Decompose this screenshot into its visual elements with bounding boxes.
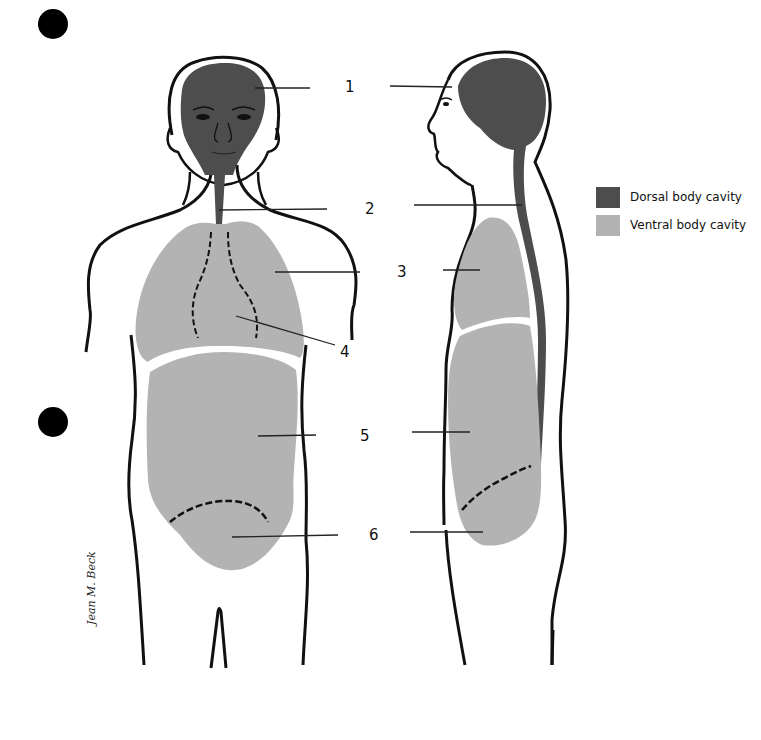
label-2: 2	[365, 200, 375, 218]
leader-line-2-front	[219, 209, 327, 210]
front-view-figure	[86, 57, 360, 668]
diagram-canvas: 1 2 3 4 5 6 Dorsal body cavity Ventral b…	[0, 0, 761, 740]
front-abdominopelvic-cavity	[147, 352, 298, 570]
dorsal-swatch	[596, 187, 620, 208]
legend-item-ventral: Ventral body cavity	[596, 212, 746, 238]
artist-signature: Jean M. Beck	[85, 551, 98, 625]
side-abdominopelvic-cavity	[448, 323, 541, 545]
label-3: 3	[397, 263, 407, 281]
ventral-swatch	[596, 215, 620, 236]
front-left-torso-outline	[129, 335, 144, 665]
label-6: 6	[369, 526, 379, 544]
legend-label-dorsal: Dorsal body cavity	[630, 190, 742, 204]
front-right-torso-outline	[302, 345, 308, 665]
legend: Dorsal body cavity Ventral body cavity	[596, 184, 746, 240]
side-leg-front	[446, 530, 465, 665]
front-thoracic-cavity	[136, 221, 304, 362]
label-1: 1	[345, 78, 355, 96]
front-legs-outline	[211, 609, 226, 669]
legend-item-dorsal: Dorsal body cavity	[596, 184, 746, 210]
legend-label-ventral: Ventral body cavity	[630, 218, 746, 232]
anatomy-illustration	[0, 0, 761, 740]
label-5: 5	[360, 427, 370, 445]
side-view-figure	[390, 52, 568, 665]
side-thoracic-cavity	[454, 218, 530, 330]
label-4: 4	[340, 343, 350, 361]
leader-line-1-side	[390, 86, 452, 87]
